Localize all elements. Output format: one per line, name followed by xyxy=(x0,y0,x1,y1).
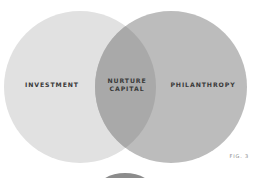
nurture-capital-line-2: CAPITAL xyxy=(100,85,154,93)
partial-shape-bottom xyxy=(97,173,153,178)
venn-diagram: INVESTMENT NURTURE CAPITAL PHILANTHROPY … xyxy=(0,0,255,178)
nurture-capital-line-1: NURTURE xyxy=(100,77,154,85)
investment-label: INVESTMENT xyxy=(22,81,82,89)
philanthropy-label: PHILANTHROPY xyxy=(168,81,238,89)
nurture-capital-label: NURTURE CAPITAL xyxy=(100,77,154,93)
figure-label: FIG. 3 xyxy=(219,153,249,159)
